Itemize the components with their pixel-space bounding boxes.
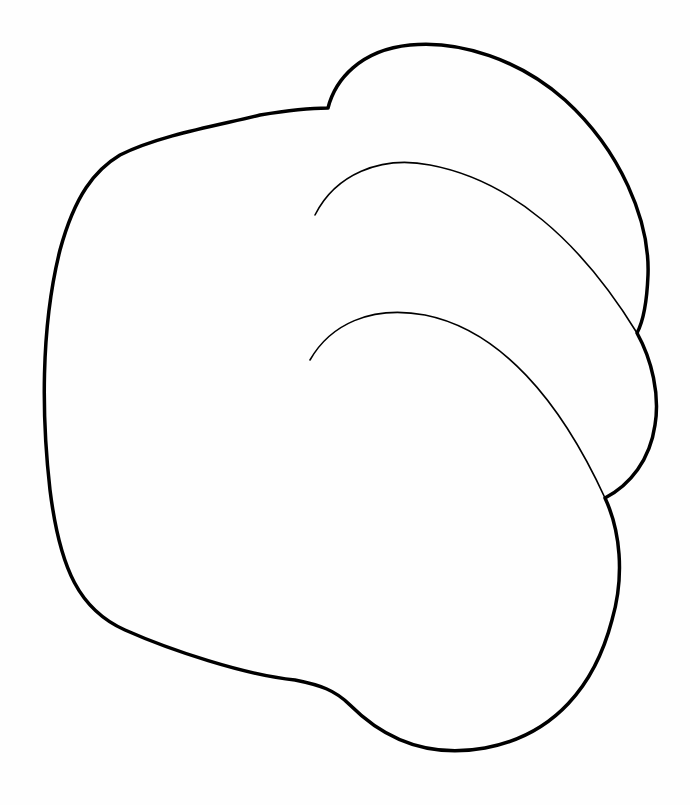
upper-fold-line <box>315 162 637 333</box>
drawing-canvas <box>0 0 690 805</box>
lower-fold-line <box>310 312 605 498</box>
outer-outline <box>44 44 656 750</box>
line-drawing <box>0 0 690 805</box>
